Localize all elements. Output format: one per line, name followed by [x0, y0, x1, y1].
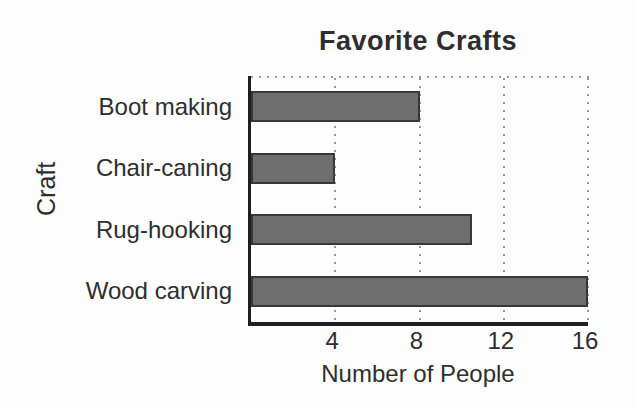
bar-wood-carving [251, 276, 588, 307]
x-axis-label: Number of People [248, 360, 588, 388]
category-label: Chair-caning [0, 138, 241, 200]
chart-canvas: Favorite Crafts Craft Boot makingChair-c… [0, 0, 634, 408]
category-labels: Boot makingChair-caningRug-hookingWood c… [0, 76, 241, 322]
category-label: Wood carving [0, 261, 241, 323]
x-tick-label: 4 [326, 327, 339, 355]
x-tick-label: 16 [572, 327, 599, 355]
x-tick-labels: 481216 [248, 327, 585, 357]
bar-chair-caning [251, 153, 335, 184]
category-label: Boot making [0, 76, 241, 138]
chart-title: Favorite Crafts [248, 26, 588, 57]
category-label: Rug-hooking [0, 199, 241, 261]
bar-boot-making [251, 91, 420, 122]
x-tick-label: 12 [487, 327, 514, 355]
plot-area [248, 76, 588, 326]
bar-rug-hooking [251, 214, 472, 245]
x-tick-label: 8 [410, 327, 423, 355]
